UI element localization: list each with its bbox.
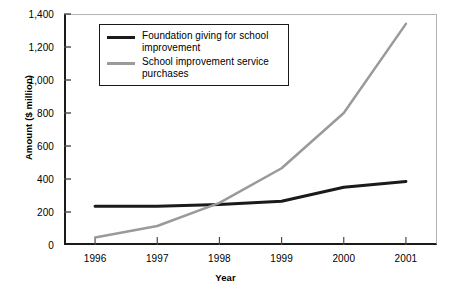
chart-legend: Foundation giving for school improvement… (99, 24, 289, 86)
x-axis-tick-label: 1999 (270, 253, 293, 264)
x-axis-tick-label: 2000 (332, 253, 355, 264)
legend-item: School improvement service purchases (107, 56, 279, 79)
x-axis-tick-label: 1997 (146, 253, 169, 264)
legend-item-label: School improvement service purchases (142, 56, 279, 79)
legend-line-swatch-icon (107, 62, 135, 65)
legend-item-label: Foundation giving for school improvement (142, 30, 279, 53)
legend-item: Foundation giving for school improvement (107, 30, 279, 53)
x-axis-title: Year (0, 272, 451, 283)
x-axis-tick-label: 1996 (84, 253, 107, 264)
chart-container: Amount ($ million) 02004006008001,0001,2… (0, 0, 451, 295)
x-axis-tick-label: 1998 (208, 253, 231, 264)
legend-line-swatch-icon (107, 36, 135, 39)
x-axis-tick-label: 2001 (395, 253, 418, 264)
